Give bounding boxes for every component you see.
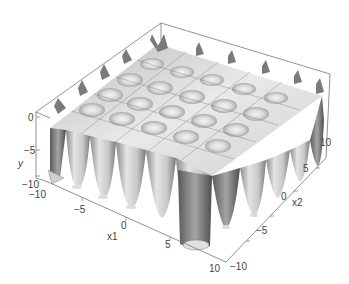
x1-tick-0: −5 bbox=[74, 204, 86, 215]
x1-tick-1: 0 bbox=[121, 220, 127, 231]
z-tick-1: −5 bbox=[24, 145, 36, 156]
z-axis-label: y bbox=[17, 158, 24, 169]
z-tick-0: 0 bbox=[28, 112, 34, 123]
x1-axis-label: x1 bbox=[107, 231, 118, 242]
x2-tick-2: 0 bbox=[281, 191, 287, 202]
x1-tick-2: 5 bbox=[165, 239, 171, 250]
x1-tick-extra: −10 bbox=[29, 189, 46, 200]
x2-tick-1: −5 bbox=[256, 225, 268, 236]
x2-tick-3: 5 bbox=[303, 163, 309, 174]
x2-tick-0: −10 bbox=[230, 261, 247, 272]
x1-tick-3: 10 bbox=[209, 263, 221, 274]
x2-axis-label: x2 bbox=[292, 197, 303, 208]
surface-plot: 0 −5 −10 y −10 −5 0 5 10 x1 −10 −5 0 5 1… bbox=[0, 0, 349, 284]
x2-tick-4: 10 bbox=[320, 137, 332, 148]
